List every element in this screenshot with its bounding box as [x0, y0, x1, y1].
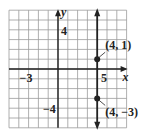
x-tick-label: 5	[101, 71, 107, 85]
x-axis-label: x	[122, 70, 129, 84]
y-axis-label: y	[59, 5, 67, 19]
y-tick-label: −4	[43, 102, 56, 116]
line-arrow-up-icon	[94, 8, 100, 16]
coordinate-plane: xy−354−4(4, 1)(4, −3)	[0, 0, 167, 134]
point-label: (4, 1)	[105, 38, 131, 52]
y-tick-label: 4	[61, 24, 67, 38]
line-arrow-down-icon	[94, 122, 100, 130]
x-tick-label: −3	[20, 71, 33, 85]
point-leader-line	[99, 52, 105, 57]
point-label: (4, −3)	[105, 105, 138, 119]
